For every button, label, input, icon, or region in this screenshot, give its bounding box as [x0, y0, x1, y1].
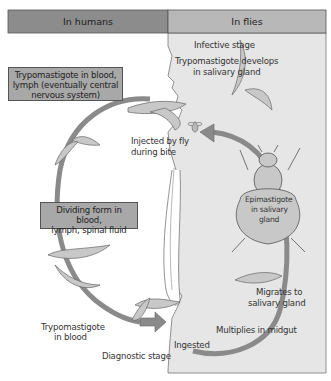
label-injected-1: Injected by fly: [131, 136, 189, 146]
box2-line2: lymph, spinal fluid: [43, 225, 135, 235]
label-migrates-2: salivary gland: [248, 298, 305, 308]
label-injected-2: during bite: [131, 147, 176, 157]
box1-line3: nervous system): [11, 90, 120, 100]
human-limb-shape: [164, 170, 181, 305]
box1-line1: Trypomastigote in blood,: [11, 70, 120, 80]
label-epimastigote-2: in salivary: [251, 205, 288, 215]
box2-line1: Dividing form in blood,: [43, 205, 135, 225]
header-humans-label: In humans: [8, 10, 168, 33]
label-trypo-blood-2: in blood: [54, 332, 87, 342]
label-trypo-salivary-1: Trypomastigote develops: [175, 56, 278, 66]
label-epimastigote-3: gland: [259, 215, 279, 225]
box-dividing-form: Dividing form in blood, lymph, spinal fl…: [40, 202, 138, 229]
header-flies-label: In flies: [168, 10, 326, 33]
label-trypo-salivary-2: in salivary gland: [193, 67, 260, 77]
label-infective-stage: Infective stage: [194, 40, 255, 50]
box1-line2: lymph (eventually central: [11, 80, 120, 90]
arrow-to-fly: [140, 312, 166, 332]
label-ingested: Ingested: [174, 340, 210, 350]
label-epimastigote-1: Epimastigote: [245, 195, 293, 205]
label-multiplies: Multiplies in midgut: [216, 325, 297, 335]
box-trypomastigote-blood: Trypomastigote in blood, lymph (eventual…: [8, 67, 123, 101]
life-cycle-diagram: In humans In flies Infective stage Trypo…: [0, 0, 331, 381]
label-diagnostic-stage: Diagnostic stage: [102, 351, 171, 361]
label-trypo-blood-1: Trypomastigote: [41, 322, 105, 332]
label-migrates-1: Migrates to: [256, 287, 302, 297]
